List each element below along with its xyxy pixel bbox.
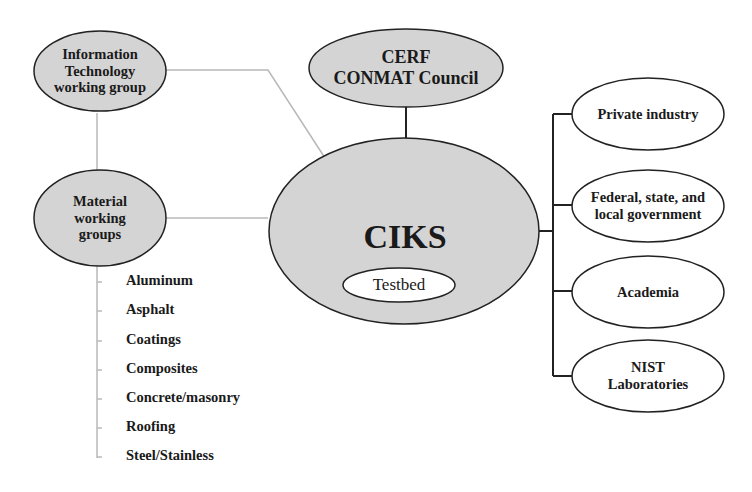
material-item-composites: Composites bbox=[126, 360, 198, 377]
node-nist: NIST Laboratories bbox=[572, 342, 724, 410]
node-information-technology-label: Information Technology working group bbox=[54, 46, 146, 96]
material-item-coatings: Coatings bbox=[126, 331, 181, 348]
material-item-roofing: Roofing bbox=[126, 418, 175, 435]
node-material-groups: Material working groups bbox=[34, 172, 166, 264]
node-material-groups-label: Material working groups bbox=[73, 193, 127, 243]
connector-it-to-ciks bbox=[166, 70, 325, 158]
node-private-industry-label: Private industry bbox=[597, 106, 698, 123]
node-private-industry: Private industry bbox=[572, 80, 724, 148]
node-testbed-label: Testbed bbox=[373, 275, 426, 295]
node-government-label: Federal, state, and local government bbox=[591, 189, 705, 222]
node-ciks-label: CIKS bbox=[363, 217, 446, 256]
node-cerf-conmat: CERF CONMAT Council bbox=[309, 30, 503, 106]
material-item-aluminum: Aluminum bbox=[126, 272, 193, 289]
node-government: Federal, state, and local government bbox=[572, 172, 724, 240]
node-cerf-conmat-label: CERF CONMAT Council bbox=[334, 47, 479, 88]
node-testbed: Testbed bbox=[343, 270, 455, 300]
material-item-asphalt: Asphalt bbox=[126, 301, 174, 318]
material-item-steel-stainless: Steel/Stainless bbox=[126, 447, 214, 464]
material-item-concrete-masonry: Concrete/masonry bbox=[126, 389, 240, 406]
node-academia-label: Academia bbox=[617, 284, 679, 301]
node-ciks-title: CIKS bbox=[300, 214, 510, 260]
node-nist-label: NIST Laboratories bbox=[608, 359, 689, 392]
node-academia: Academia bbox=[572, 258, 724, 326]
node-information-technology: Information Technology working group bbox=[34, 33, 166, 109]
